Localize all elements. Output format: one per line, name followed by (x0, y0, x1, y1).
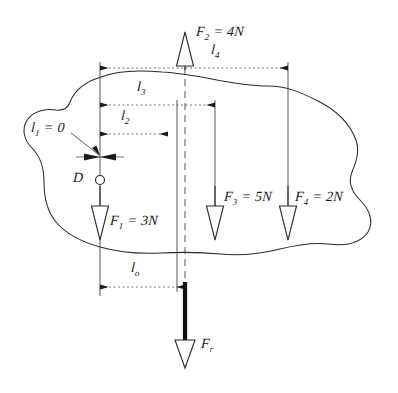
dimension-label-l0: lo (130, 260, 140, 278)
force-label-f4: F4 = 2N (294, 189, 343, 207)
rigid-body-outline (24, 71, 371, 255)
force-label-f2: F2 = 4N (195, 24, 244, 42)
dimension-label-l1: l1 = 0 (30, 120, 65, 138)
force-arrow-f1 (92, 186, 109, 240)
dimension-label-l4: l4 (210, 42, 220, 60)
force-arrow-f2 (177, 32, 194, 70)
dimension-l1-zero (71, 133, 124, 160)
force-label-f3: F3 = 5N (223, 189, 272, 207)
force-arrow-f4 (280, 186, 297, 240)
pivot-label-d: D (72, 170, 84, 186)
diagram-canvas: F2 = 4N l4 l3 l2 l1 = 0 D F1 = 3N F3 = 5… (0, 0, 398, 393)
force-label-fr: Fr (200, 336, 214, 354)
pivot-point-d (96, 176, 105, 185)
force-arrow-f3 (207, 186, 224, 240)
force-label-f1: F1 = 3N (109, 213, 158, 231)
force-arrow-fr (175, 282, 195, 368)
dimension-label-l2: l2 (120, 108, 130, 126)
leader-line-l1 (71, 133, 99, 155)
dimension-label-l3: l3 (136, 79, 146, 97)
